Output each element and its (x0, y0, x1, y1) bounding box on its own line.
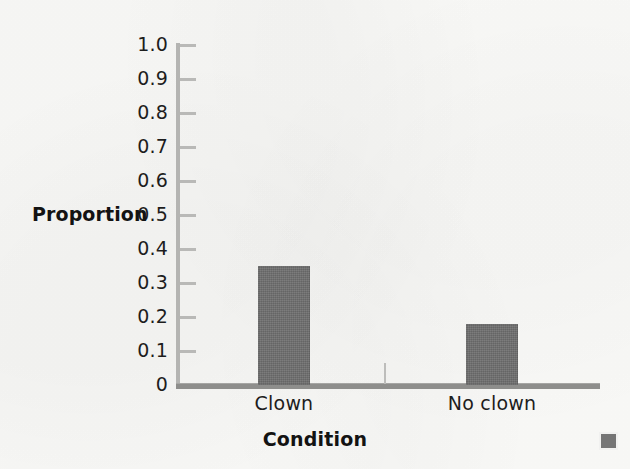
y-axis-tick-label: 0.8 (122, 101, 168, 123)
y-axis-tick-label: 0.7 (122, 135, 168, 157)
x-axis-category-label: Clown (204, 392, 364, 414)
y-axis-tick-label: 0.1 (122, 339, 168, 361)
y-axis-tick-label: 0.3 (122, 271, 168, 293)
y-axis-title: Proportion (32, 203, 160, 225)
bar-clown (258, 266, 310, 385)
bar-no-clown (466, 324, 518, 385)
y-axis-tick-label: 1.0 (122, 33, 168, 55)
x-axis-title: Condition (0, 428, 630, 450)
y-axis-tick-label: 0.6 (122, 169, 168, 191)
y-axis-tick-label: 0.4 (122, 237, 168, 259)
y-axis-tick-label: 0 (122, 373, 168, 395)
bar-chart-figure: 1.00.90.80.70.60.50.40.30.20.10 Proporti… (0, 0, 630, 469)
plot-area (178, 45, 600, 385)
scan-artifact-square (601, 434, 616, 448)
y-axis-tick-label: 0.2 (122, 305, 168, 327)
y-axis-tick-label: 0.9 (122, 67, 168, 89)
x-axis-category-label: No clown (412, 392, 572, 414)
